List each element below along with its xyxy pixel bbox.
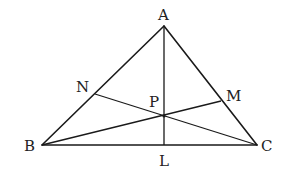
point-p: [162, 114, 165, 117]
side-ab: [42, 26, 164, 145]
side-ca: [164, 26, 257, 145]
label-a: A: [157, 6, 169, 24]
label-n: N: [76, 78, 89, 96]
label-c: C: [261, 137, 272, 155]
label-m: M: [226, 87, 241, 105]
label-b: B: [24, 137, 35, 155]
label-l: L: [159, 152, 169, 170]
cevian-bm: [42, 101, 221, 145]
triangle-diagram: A B C L N M P: [0, 0, 294, 171]
label-p: P: [149, 93, 159, 111]
